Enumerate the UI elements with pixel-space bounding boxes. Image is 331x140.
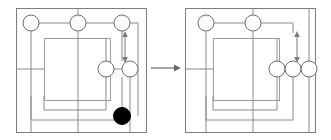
panel-before-double-arrow (122, 31, 128, 63)
diagram-canvas (0, 0, 331, 140)
transform-arrow (151, 65, 181, 72)
wire-spiral-inner (44, 77, 106, 110)
node-open-after-1[interactable] (198, 15, 214, 31)
panel-after (186, 9, 318, 133)
node-filled-before-6[interactable] (114, 108, 131, 125)
node-open-after-5[interactable] (301, 61, 317, 77)
panel-before (17, 9, 147, 133)
wire-after-m2-right (261, 23, 293, 33)
double-arrow-head-up-after (294, 31, 300, 37)
node-open-before-3[interactable] (114, 15, 130, 31)
node-open-before-1[interactable] (23, 15, 39, 31)
wire-after-m3-down (213, 77, 277, 110)
figure-root (0, 0, 331, 140)
node-open-before-2[interactable] (70, 15, 86, 31)
node-open-after-2[interactable] (245, 15, 261, 31)
node-open-before-5[interactable] (122, 61, 138, 77)
node-open-after-4[interactable] (285, 61, 301, 77)
node-open-after-3[interactable] (269, 61, 285, 77)
double-arrow-head-up (122, 31, 128, 37)
transform-arrow-head (174, 65, 181, 72)
panel-after-double-arrow (294, 31, 300, 63)
node-open-before-4[interactable] (98, 61, 114, 77)
